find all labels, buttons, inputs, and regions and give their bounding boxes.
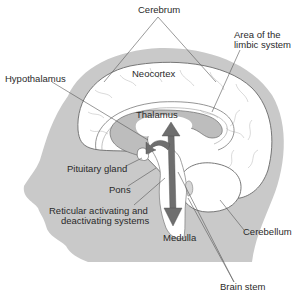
label-thalamus: Thalamus: [136, 109, 178, 120]
label-medulla: Medulla: [163, 232, 196, 243]
label-reticular-line2: deactivating systems: [61, 215, 149, 226]
label-cerebellum: Cerebellum: [243, 226, 292, 237]
brain-diagram: Cerebrum Area of the limbic system Hypot…: [0, 0, 295, 294]
label-limbic-line2: limbic system: [234, 39, 291, 50]
label-pons: Pons: [109, 184, 131, 195]
label-neocortex: Neocortex: [132, 68, 175, 79]
label-brain-stem: Brain stem: [220, 281, 265, 292]
label-cerebrum: Cerebrum: [138, 4, 180, 15]
label-pituitary-gland: Pituitary gland: [67, 163, 127, 174]
label-hypothalamus: Hypothalamus: [5, 73, 66, 84]
